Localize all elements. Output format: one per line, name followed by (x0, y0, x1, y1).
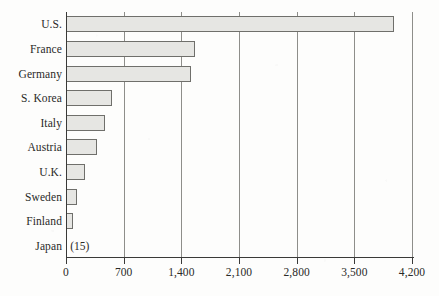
tick-mark (354, 258, 355, 264)
category-label: France (0, 43, 62, 55)
category-label: Germany (0, 68, 62, 80)
tick-label: 0 (63, 266, 69, 278)
tick-label: 700 (115, 266, 133, 278)
category-label: S. Korea (0, 92, 62, 104)
bar (66, 16, 394, 32)
category-label: U.K. (0, 166, 62, 178)
gridline (239, 12, 240, 258)
tick-mark (181, 258, 182, 264)
value-axis-baseline (66, 257, 414, 258)
bar (66, 164, 85, 180)
tick-mark (412, 258, 413, 264)
tick-label: 4,200 (399, 266, 425, 278)
tick-label: 3,500 (341, 266, 367, 278)
tick-mark (66, 258, 67, 264)
plot-area: (15) (66, 12, 413, 258)
tick-label: 2,100 (226, 266, 252, 278)
bar (66, 66, 191, 82)
bar-chart: U.S.FranceGermanyS. KoreaItalyAustriaU.K… (0, 0, 439, 296)
tick-label: 2,800 (283, 266, 309, 278)
category-label: Austria (0, 141, 62, 153)
bar (66, 41, 195, 57)
category-label: Italy (0, 117, 62, 129)
bar-value-label: (15) (67, 238, 89, 254)
gridline (297, 12, 298, 258)
bar (66, 115, 105, 131)
tick-label: 1,400 (168, 266, 194, 278)
category-axis: U.S.FranceGermanyS. KoreaItalyAustriaU.K… (0, 12, 62, 258)
category-label: Japan (0, 240, 62, 252)
bar (66, 139, 97, 155)
category-label: U.S. (0, 18, 62, 30)
bar (66, 90, 112, 106)
tick-mark (297, 258, 298, 264)
gridline (354, 12, 355, 258)
gridline (412, 12, 413, 258)
category-label: Sweden (0, 191, 62, 203)
bar (66, 189, 77, 205)
category-label: Finland (0, 215, 62, 227)
tick-mark (124, 258, 125, 264)
tick-mark (239, 258, 240, 264)
value-axis-line (66, 12, 67, 258)
